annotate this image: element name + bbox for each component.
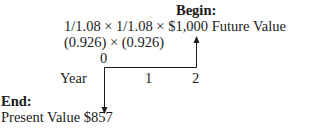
arrow-down-icon xyxy=(102,107,108,114)
timeline-lines xyxy=(0,0,309,129)
arrow-up-icon xyxy=(194,36,200,43)
